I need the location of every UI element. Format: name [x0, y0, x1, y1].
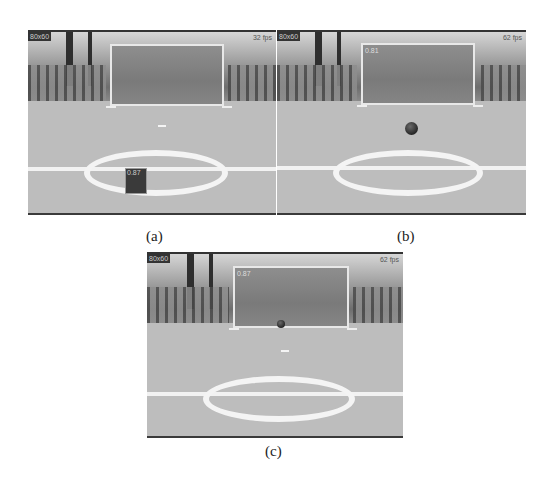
resolution-label: 80x60 [28, 32, 51, 41]
resolution-label: 80x60 [277, 32, 300, 41]
goal: 0.81 [361, 43, 475, 105]
chairs-left [147, 287, 229, 323]
goal-detection-label: 0.87 [237, 270, 251, 277]
center-circle [203, 376, 355, 422]
goal-post-foot [222, 106, 232, 108]
ball [405, 122, 418, 135]
caption-b: (b) [397, 228, 415, 245]
goal-post-foot [106, 106, 116, 108]
chairs-right [481, 65, 526, 101]
panel-a-frame: 0.87 80x60 32 fps [28, 30, 276, 215]
ball-detection-label: 0.87 [127, 169, 141, 176]
panel-b-frame: 0.81 80x60 62 fps [277, 30, 526, 215]
center-circle [333, 150, 483, 196]
fps-label: 62 fps [503, 34, 522, 41]
chairs-left [277, 65, 357, 101]
center-circle [84, 150, 228, 196]
ball [277, 320, 285, 328]
chairs-right [353, 287, 403, 323]
chairs-left [28, 65, 106, 101]
goal-detection-label: 0.81 [365, 47, 379, 54]
goal: 0.87 [233, 266, 349, 328]
panel-c-frame: 0.87 80x60 62 fps [147, 252, 403, 438]
caption-a: (a) [146, 228, 163, 245]
chairs-right [228, 65, 276, 101]
goal-post-foot [347, 328, 357, 330]
goal-post-foot [473, 105, 483, 107]
penalty-spot [158, 125, 166, 127]
goal-post-foot [357, 105, 367, 107]
fps-label: 32 fps [253, 34, 272, 41]
caption-c: (c) [265, 443, 282, 460]
penalty-spot [281, 350, 289, 352]
goal-post-foot [229, 328, 239, 330]
ball-detection-box: 0.87 [125, 168, 147, 194]
goal [110, 44, 224, 106]
resolution-label: 80x60 [147, 254, 170, 263]
fps-label: 62 fps [380, 256, 399, 263]
